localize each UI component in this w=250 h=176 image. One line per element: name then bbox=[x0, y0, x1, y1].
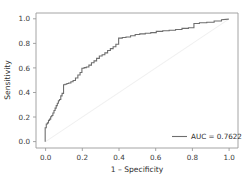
y-tick-label: 0.8 bbox=[19, 39, 31, 48]
y-tick-label: 0.0 bbox=[19, 137, 31, 146]
x-tick-labels: 0.0 0.2 0.4 0.6 0.8 1.0 bbox=[40, 153, 235, 162]
y-tick-label: 0.6 bbox=[19, 64, 31, 73]
x-axis-title: 1 – Specificity bbox=[111, 165, 164, 174]
x-tick-label: 0.6 bbox=[150, 153, 162, 162]
x-tick-label: 1.0 bbox=[223, 153, 235, 162]
roc-chart-figure: 0.0 0.2 0.4 0.6 0.8 1.0 0.0 0.2 0.4 0.6 … bbox=[0, 0, 250, 176]
legend-label-auc: AUC = 0.7622 bbox=[191, 132, 242, 141]
y-tick-labels: 0.0 0.2 0.4 0.6 0.8 1.0 bbox=[19, 14, 31, 146]
roc-plot-svg: 0.0 0.2 0.4 0.6 0.8 1.0 0.0 0.2 0.4 0.6 … bbox=[0, 0, 250, 176]
x-tick-label: 0.2 bbox=[77, 153, 88, 162]
y-tick-label: 1.0 bbox=[19, 14, 31, 23]
y-axis-title: Sensitivity bbox=[3, 60, 12, 100]
x-tick-label: 0.8 bbox=[187, 153, 199, 162]
x-tick-label: 0.0 bbox=[40, 153, 52, 162]
y-tick-label: 0.2 bbox=[19, 113, 30, 122]
x-tick-label: 0.4 bbox=[113, 153, 125, 162]
y-tick-label: 0.4 bbox=[19, 88, 31, 97]
